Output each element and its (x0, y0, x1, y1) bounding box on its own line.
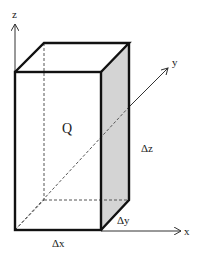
control-volume-diagram: z y x Q Δz Δy Δx (0, 0, 200, 258)
volume-label: Q (62, 121, 72, 136)
dy-label: Δy (117, 214, 130, 226)
shaded-right-face (101, 43, 129, 230)
dz-label: Δz (141, 142, 153, 154)
y-axis-label: y (172, 56, 178, 68)
y-axis (129, 68, 168, 107)
x-axis-label: x (184, 225, 190, 237)
dx-label: Δx (52, 237, 65, 249)
z-axis-label: z (12, 8, 17, 20)
